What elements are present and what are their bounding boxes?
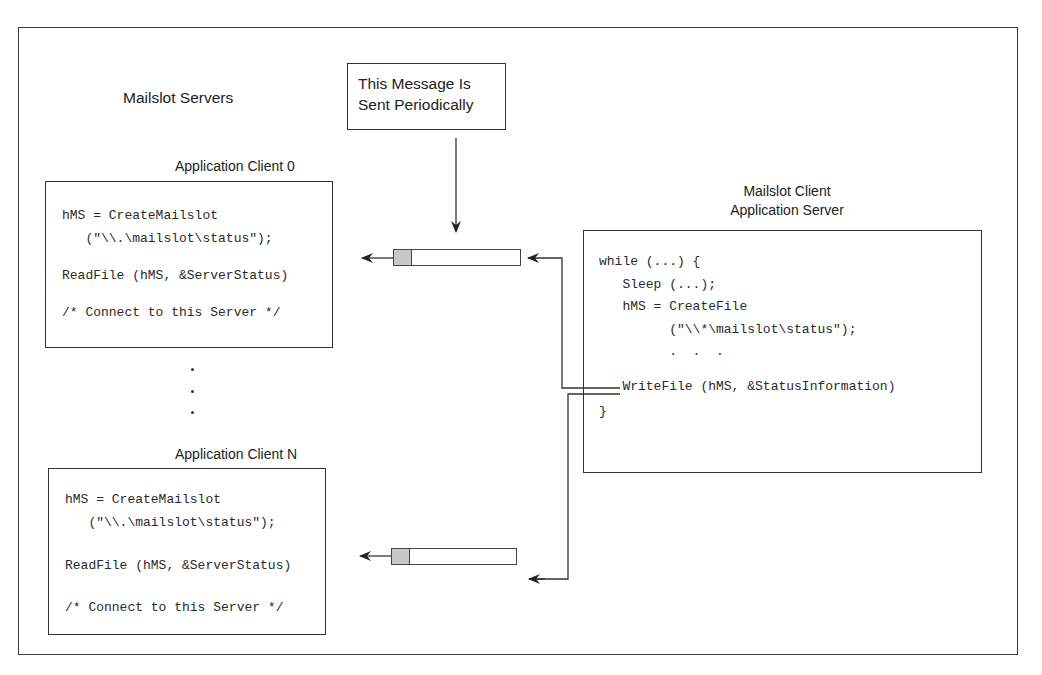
server-to-queue0-arrow xyxy=(528,258,620,388)
connector-arrows xyxy=(0,0,1042,675)
server-to-queueN-line xyxy=(529,394,620,579)
